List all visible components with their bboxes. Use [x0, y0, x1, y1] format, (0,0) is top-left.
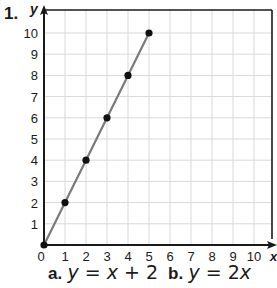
answer-b-rel: =	[206, 261, 222, 283]
data-point	[40, 241, 47, 248]
answer-a-rel: =	[85, 261, 101, 283]
data-point	[61, 199, 68, 206]
y-tick-label: 5	[31, 132, 38, 147]
answer-a-lhs: y	[67, 261, 78, 283]
answer-a-rest: + 2	[124, 261, 158, 283]
data-point	[145, 29, 152, 36]
y-tick-label: 6	[31, 111, 38, 126]
answer-choice-a[interactable]: a. y = x + 2	[48, 261, 158, 284]
y-tick-label: 1	[31, 217, 38, 232]
x-axis-label: x	[269, 249, 277, 264]
answer-letter-a: a.	[48, 264, 62, 283]
y-tick-label: 2	[31, 196, 38, 211]
y-axis-label: y	[29, 1, 39, 17]
answer-b-coef: 2	[228, 261, 240, 283]
answer-choice-b[interactable]: b. y = 2x	[168, 261, 251, 284]
answer-b-var: x	[240, 261, 251, 283]
x-tick-label: 0	[37, 249, 44, 264]
y-tick-label: 10	[24, 26, 38, 41]
y-tick-label: 9	[31, 47, 38, 62]
data-point	[103, 114, 110, 121]
y-tick-label: 3	[31, 174, 38, 189]
answer-b-lhs: y	[188, 261, 199, 283]
data-point	[124, 72, 131, 79]
y-tick-label: 8	[31, 68, 38, 83]
answer-a-var: x	[107, 261, 118, 283]
y-tick-label: 4	[31, 153, 38, 168]
y-tick-label: 7	[31, 90, 38, 105]
answer-letter-b: b.	[168, 264, 183, 283]
coordinate-graph: 01234567891012345678910xy	[0, 0, 277, 288]
data-point	[82, 157, 89, 164]
